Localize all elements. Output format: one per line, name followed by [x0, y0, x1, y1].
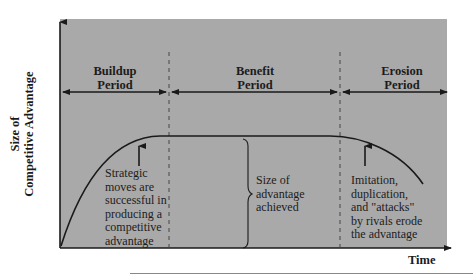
annotation-line: successful in — [105, 194, 167, 208]
x-axis-label: Time — [408, 253, 436, 268]
buildup-annotation: Strategic moves are successful in produc… — [105, 167, 167, 248]
benefit-annotation: Size of advantage achieved — [256, 174, 305, 215]
erosion-annotation: Imitation, duplication, and "attacks" by… — [351, 174, 422, 242]
y-axis-label: Size of Competitive Advantage — [8, 69, 36, 199]
benefit-label-line2: Period — [210, 78, 300, 92]
buildup-period-label: Buildup Period — [70, 64, 160, 92]
y-axis-label-line1: Size of — [8, 69, 22, 199]
competitive-advantage-diagram: Size of Competitive Advantage Buildup Pe… — [0, 0, 473, 278]
erosion-label-line1: Erosion — [357, 64, 447, 78]
benefit-label-line1: Benefit — [210, 64, 300, 78]
y-axis-label-line2: Competitive Advantage — [22, 69, 36, 199]
annotation-line: advantage — [256, 188, 305, 202]
annotation-line: and "attacks" — [351, 201, 422, 215]
annotation-line: duplication, — [351, 188, 422, 202]
annotation-line: the advantage — [351, 228, 422, 242]
annotation-line: Imitation, — [351, 174, 422, 188]
annotation-line: competitive — [105, 221, 167, 235]
annotation-line: Strategic — [105, 167, 167, 181]
annotation-line: producing a — [105, 208, 167, 222]
erosion-period-label: Erosion Period — [357, 64, 447, 92]
bottom-rule — [130, 273, 473, 274]
buildup-label-line2: Period — [70, 78, 160, 92]
annotation-line: Size of — [256, 174, 305, 188]
benefit-period-label: Benefit Period — [210, 64, 300, 92]
annotation-line: moves are — [105, 181, 167, 195]
annotation-line: advantage — [105, 235, 167, 249]
annotation-line: achieved — [256, 201, 305, 215]
buildup-label-line1: Buildup — [70, 64, 160, 78]
erosion-label-line2: Period — [357, 78, 447, 92]
annotation-line: by rivals erode — [351, 215, 422, 229]
